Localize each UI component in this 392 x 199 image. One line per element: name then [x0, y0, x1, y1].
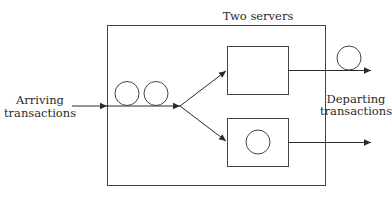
arriving-label-line1: Arriving [15, 93, 65, 107]
dispatch-arrow-upper [180, 71, 226, 106]
departing-transaction [337, 46, 361, 70]
queued-transaction-2 [144, 82, 168, 106]
in-service-transaction [246, 130, 270, 154]
queued-transaction-1 [115, 82, 139, 106]
departing-label-line2: transactions [320, 104, 392, 118]
server-2-box [228, 119, 289, 167]
arriving-label-line2: transactions [4, 106, 76, 120]
server-1-box [228, 47, 289, 95]
dispatch-arrow-lower [180, 106, 226, 141]
system-title: Two servers [223, 9, 294, 23]
queueing-diagram: Two servers Arriving transactions Depart… [0, 0, 392, 199]
